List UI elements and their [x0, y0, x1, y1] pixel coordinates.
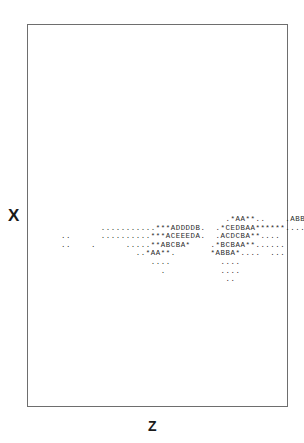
x-axis-label: Z — [148, 418, 157, 434]
ascii-row: ..*AA**. *ABBA*.... ... — [56, 249, 304, 258]
ascii-row: .. ..........***ACEEEDA. .ACDCBA**.... — [56, 232, 304, 241]
ascii-row: .. — [56, 275, 304, 284]
ascii-row: .*AA**.. .ABBA**......... . . — [56, 215, 304, 224]
ascii-row: ...........***ADDDDB. .*CEDBAA******....… — [56, 224, 304, 233]
y-axis-label: X — [8, 206, 19, 226]
ascii-row: . .... — [56, 267, 304, 276]
plot-frame: .*AA**.. .ABBA**......... . . ..........… — [27, 24, 288, 407]
ascii-density-field: .*AA**.. .ABBA**......... . . ..........… — [56, 215, 304, 284]
ascii-row: .. . .....**ABCBA* .*BCBAA**...... — [56, 241, 304, 250]
ascii-row: .... .... — [56, 258, 304, 267]
